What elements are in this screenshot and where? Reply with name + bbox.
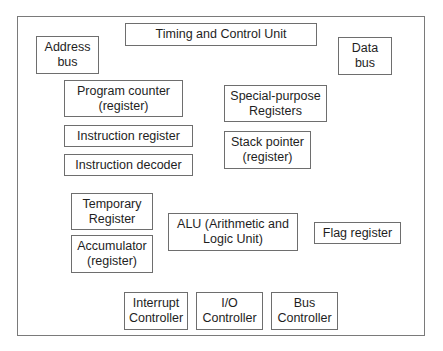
accumulator-label: Accumulator (register) <box>77 239 146 269</box>
instruction-decoder-box: Instruction decoder <box>64 154 193 176</box>
alu-label: ALU (Arithmetic and Logic Unit) <box>177 217 289 247</box>
timing-control-unit-box: Timing and Control Unit <box>125 23 317 46</box>
io-controller-box: I/O Controller <box>196 292 263 330</box>
instruction-register-box: Instruction register <box>64 125 193 147</box>
stack-pointer-label: Stack pointer (register) <box>231 135 304 165</box>
data-bus-box: Data bus <box>338 37 392 75</box>
timing-control-unit-label: Timing and Control Unit <box>156 27 287 42</box>
accumulator-box: Accumulator (register) <box>71 235 153 273</box>
stack-pointer-box: Stack pointer (register) <box>224 131 311 169</box>
alu-box: ALU (Arithmetic and Logic Unit) <box>168 213 298 251</box>
data-bus-label: Data bus <box>352 41 378 71</box>
special-purpose-registers-label: Special-purpose Registers <box>230 89 320 119</box>
interrupt-controller-label: Interrupt Controller <box>129 296 183 326</box>
bus-controller-box: Bus Controller <box>271 292 338 330</box>
io-controller-label: I/O Controller <box>202 296 256 326</box>
instruction-register-label: Instruction register <box>77 129 180 144</box>
instruction-decoder-label: Instruction decoder <box>75 158 181 173</box>
temporary-register-box: Temporary Register <box>71 193 153 230</box>
program-counter-box: Program counter (register) <box>64 80 183 117</box>
special-purpose-registers-box: Special-purpose Registers <box>224 85 327 122</box>
address-bus-label: Address bus <box>45 40 91 70</box>
temporary-register-label: Temporary Register <box>82 197 141 227</box>
bus-controller-label: Bus Controller <box>277 296 331 326</box>
address-bus-box: Address bus <box>36 36 99 74</box>
program-counter-label: Program counter (register) <box>77 84 170 114</box>
flag-register-box: Flag register <box>314 222 401 244</box>
flag-register-label: Flag register <box>323 226 392 241</box>
interrupt-controller-box: Interrupt Controller <box>124 292 188 330</box>
